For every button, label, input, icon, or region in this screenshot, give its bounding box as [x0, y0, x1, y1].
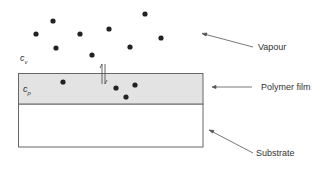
vapour-label: Vapour	[258, 42, 286, 52]
substrate-leader-arrow	[209, 130, 253, 153]
substrate-layer	[19, 104, 204, 147]
vapour-concentration-symbol: cv	[20, 53, 28, 65]
polymer-concentration-symbol: cp	[23, 84, 31, 96]
polymer-film-leader-arrow	[212, 86, 252, 89]
polymer-film-layer	[19, 74, 204, 105]
vapour-molecules	[33, 11, 163, 57]
substrate-label: Substrate	[256, 148, 295, 158]
vapour-leader-arrow	[202, 33, 253, 47]
polymer-film-label: Polymer film	[261, 82, 311, 92]
